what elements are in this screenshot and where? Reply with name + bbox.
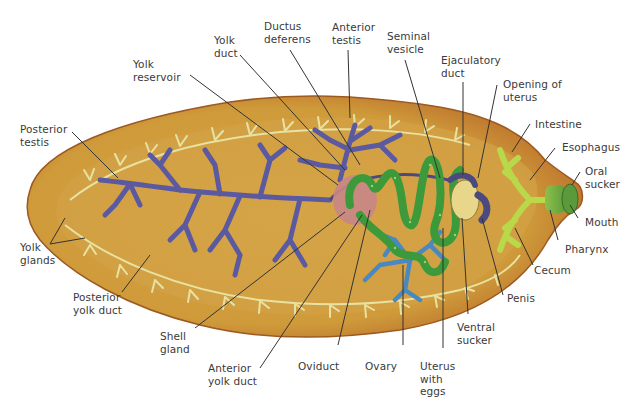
label-seminal-vesicle: Seminal vesicle [387, 30, 430, 55]
label-ovary: Ovary [365, 360, 397, 373]
label-oviduct: Oviduct [298, 360, 339, 373]
label-posterior-testis: Posterior testis [20, 123, 67, 148]
label-uterus-with-eggs: Uterus with eggs [420, 360, 455, 398]
label-anterior-yolk-duct: Anterior yolk duct [208, 362, 257, 387]
label-posterior-yolk-duct: Posterior yolk duct [73, 291, 122, 316]
label-esophagus: Esophagus [562, 141, 620, 154]
label-ductus-deferens: Ductus deferens [264, 20, 311, 45]
label-opening-of-uterus: Opening of uterus [503, 78, 562, 103]
label-intestine: Intestine [535, 118, 582, 131]
label-mouth: Mouth [585, 216, 618, 229]
label-ventral-sucker: Ventral sucker [457, 321, 495, 346]
label-penis: Penis [507, 292, 535, 305]
label-yolk-glands: Yolk glands [20, 241, 55, 266]
oral-sucker [562, 184, 578, 214]
label-yolk-duct: Yolk duct [214, 34, 238, 59]
label-ejaculatory-duct: Ejaculatory duct [441, 54, 501, 79]
label-yolk-reservoir: Yolk reservoir [133, 58, 181, 83]
label-cecum: Cecum [534, 264, 571, 277]
fluke-anatomy-illustration [0, 0, 638, 412]
label-oral-sucker: Oral sucker [585, 165, 620, 190]
label-shell-gland: Shell gland [160, 330, 190, 355]
label-pharynx: Pharynx [565, 243, 609, 256]
label-anterior-testis: Anterior testis [332, 21, 375, 46]
